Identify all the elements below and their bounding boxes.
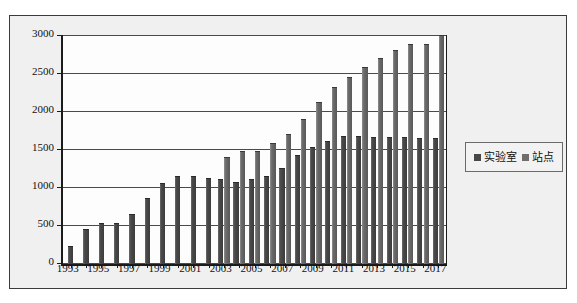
bar-site-2012	[362, 67, 367, 264]
bar-lab-2013	[371, 137, 376, 264]
gridline-2000	[63, 111, 446, 112]
bar-site-2009	[316, 102, 321, 264]
bar-site-2006	[270, 143, 275, 264]
x-axis-tick-label: 2011	[333, 262, 355, 274]
chart-figure: 实验室 站点 050010001500200025003000 19931995…	[0, 0, 577, 303]
y-axis-tick-mark	[57, 35, 62, 36]
x-axis-tick-label: 2003	[210, 262, 232, 274]
y-axis-tick-mark	[57, 73, 62, 74]
bar-site-2010	[332, 87, 337, 264]
legend-label-site: 站点	[532, 152, 554, 163]
x-axis-tick-label: 2009	[302, 262, 324, 274]
bar-lab-2010	[325, 141, 330, 264]
x-axis-tick-label: 2017	[424, 262, 446, 274]
x-axis-tick-label: 1995	[87, 262, 109, 274]
chart-legend: 实验室 站点	[465, 142, 563, 172]
bar-site-2008	[301, 119, 306, 264]
x-axis-tick-label: 1999	[149, 262, 171, 274]
x-axis-tick-label: 2015	[394, 262, 416, 274]
plot-area	[61, 35, 447, 266]
bar-lab-2015	[402, 137, 407, 264]
y-axis-tick-label: 2000	[32, 104, 54, 115]
square-marker-icon	[522, 154, 529, 161]
x-axis-tick-label: 2013	[363, 262, 385, 274]
y-axis-tick-label: 500	[38, 218, 55, 229]
x-axis-tick-label: 1997	[118, 262, 140, 274]
x-axis-labels: 1993199519971999200120032005200720092011…	[9, 250, 567, 272]
bar-site-2005	[255, 151, 260, 264]
bar-site-2004	[240, 151, 245, 264]
x-axis-tick-label: 2001	[179, 262, 201, 274]
bar-lab-2014	[387, 137, 392, 264]
chart-panel: 实验室 站点	[9, 15, 567, 289]
bar-lab-2017	[433, 138, 438, 264]
legend-entry-lab: 实验室	[474, 152, 517, 163]
y-axis-tick-mark	[57, 111, 62, 112]
y-axis-tick-mark	[57, 225, 62, 226]
x-axis-tick-label: 2005	[241, 262, 263, 274]
bar-site-2017	[439, 35, 444, 264]
x-axis-tick-label: 1993	[57, 262, 79, 274]
x-axis-tick-label: 2007	[271, 262, 293, 274]
gridline-3000	[63, 35, 446, 36]
gridline-2500	[63, 73, 446, 74]
bar-lab-2008	[295, 155, 300, 264]
bar-site-2003	[224, 157, 229, 264]
bar-lab-2011	[341, 136, 346, 264]
bar-lab-2016	[417, 138, 422, 264]
bar-lab-2009	[310, 147, 315, 264]
y-axis-tick-label: 3000	[32, 28, 54, 39]
legend-entry-site: 站点	[522, 152, 554, 163]
bar-site-2007	[286, 134, 291, 264]
bar-site-2014	[393, 50, 398, 264]
y-axis-tick-mark	[57, 187, 62, 188]
bar-site-2013	[378, 58, 383, 264]
y-axis-tick-label: 1000	[32, 180, 54, 191]
legend-label-lab: 实验室	[484, 152, 517, 163]
y-axis-tick-label: 2500	[32, 66, 54, 77]
bar-site-2016	[424, 44, 429, 264]
bar-site-2015	[408, 44, 413, 264]
bar-lab-2012	[356, 136, 361, 264]
bar-site-2011	[347, 77, 352, 264]
y-axis-tick-label: 1500	[32, 142, 54, 153]
y-axis-tick-mark	[57, 149, 62, 150]
square-marker-icon	[474, 154, 481, 161]
y-axis-labels: 050010001500200025003000	[9, 15, 54, 255]
